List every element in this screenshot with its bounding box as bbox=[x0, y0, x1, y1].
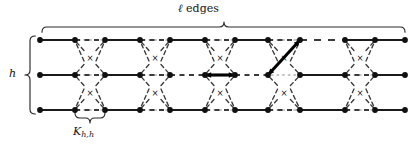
graph-vertex bbox=[297, 37, 303, 43]
bipartite-edge-hint bbox=[347, 44, 355, 61]
graph-vertex bbox=[167, 72, 173, 78]
graph-vertex bbox=[102, 107, 108, 113]
figure-container: ×××××××××× ℓ edges h Kh,h bbox=[0, 0, 416, 150]
graph-vertex bbox=[265, 107, 271, 113]
bipartite-edge-hint bbox=[161, 65, 169, 73]
bipartite-edge-hint bbox=[96, 77, 104, 85]
bipartite-edge-hint bbox=[96, 44, 104, 61]
label-k-subscript: h,h bbox=[81, 130, 94, 139]
bipartite-cross-symbol: × bbox=[86, 88, 93, 98]
graph-vertex bbox=[342, 37, 348, 43]
bipartite-edge-hint bbox=[290, 89, 298, 106]
label-k-h-h: Kh,h bbox=[73, 126, 94, 139]
bipartite-edge-hint bbox=[77, 77, 85, 85]
graph-vertex bbox=[232, 107, 238, 113]
graph-vertex bbox=[37, 72, 43, 78]
bipartite-edge-hint bbox=[270, 89, 278, 106]
bipartite-cross-symbol: × bbox=[216, 53, 223, 63]
bipartite-edge-hint bbox=[347, 89, 355, 106]
brace bbox=[42, 22, 405, 32]
graph-vertex bbox=[102, 72, 108, 78]
bipartite-cross-symbol: × bbox=[86, 53, 93, 63]
bipartite-edge-hint bbox=[77, 44, 85, 61]
bipartite-edge-hint bbox=[270, 77, 278, 85]
bipartite-edge-hint bbox=[270, 44, 278, 61]
bipartite-edge-hint bbox=[142, 89, 150, 106]
label-k-base: K bbox=[73, 125, 81, 138]
bipartite-cross-symbol: × bbox=[356, 53, 363, 63]
graph-vertex bbox=[372, 107, 378, 113]
bipartite-edge-hint bbox=[366, 77, 374, 85]
graph-vertex bbox=[202, 72, 208, 78]
graph-vertex bbox=[102, 37, 108, 43]
bipartite-edge-hint bbox=[226, 44, 234, 61]
graph-vertex bbox=[402, 37, 408, 43]
bipartite-edge-hint bbox=[96, 89, 104, 106]
graph-vertex bbox=[137, 72, 143, 78]
bipartite-edge-hint bbox=[347, 77, 355, 85]
bipartite-cross-symbol: × bbox=[216, 88, 223, 98]
bipartite-edge-hint bbox=[96, 65, 104, 73]
graph-vertex bbox=[167, 37, 173, 43]
label-h: h bbox=[9, 68, 16, 79]
graph-vertex bbox=[297, 107, 303, 113]
bipartite-edge-hint bbox=[207, 65, 215, 73]
bipartite-edge-hint bbox=[207, 44, 215, 61]
label-l-edges: ℓ edges bbox=[178, 3, 219, 14]
graph-vertex bbox=[72, 72, 78, 78]
graph-vertex bbox=[265, 37, 271, 43]
graph-vertex bbox=[265, 72, 271, 78]
graph-vertex bbox=[372, 37, 378, 43]
bipartite-edge-hint bbox=[142, 65, 150, 73]
bipartite-edge-hint bbox=[290, 77, 298, 85]
bipartite-cross-symbol: × bbox=[356, 88, 363, 98]
graph-vertex bbox=[342, 72, 348, 78]
graph-vertex bbox=[342, 107, 348, 113]
bipartite-edge-hint bbox=[77, 65, 85, 73]
bipartite-cross-symbol: × bbox=[151, 53, 158, 63]
bipartite-edge-hint bbox=[77, 89, 85, 106]
graph-diagram-canvas: ×××××××××× bbox=[0, 0, 416, 150]
bipartite-edge-hint bbox=[290, 65, 298, 73]
graph-vertex bbox=[137, 107, 143, 113]
bipartite-edge-hint bbox=[161, 89, 169, 106]
bipartite-edge-hint bbox=[161, 44, 169, 61]
graph-vertex bbox=[167, 107, 173, 113]
brace-layer bbox=[25, 22, 405, 123]
graph-vertex bbox=[137, 37, 143, 43]
bipartite-edge-hint bbox=[366, 89, 374, 106]
bipartite-edge-hint bbox=[366, 44, 374, 61]
graph-vertex bbox=[297, 72, 303, 78]
bipartite-edge-hint bbox=[226, 65, 234, 73]
bipartite-edge-hint bbox=[161, 77, 169, 85]
brace bbox=[25, 36, 36, 114]
bipartite-cross-symbol: × bbox=[280, 88, 287, 98]
graph-vertex bbox=[232, 72, 238, 78]
bipartite-cross-symbol: × bbox=[151, 88, 158, 98]
graph-vertex bbox=[202, 37, 208, 43]
graph-vertex bbox=[37, 107, 43, 113]
bipartite-edge-hint bbox=[142, 77, 150, 85]
graph-vertex bbox=[232, 37, 238, 43]
bipartite-edge-hint bbox=[366, 65, 374, 73]
graph-vertex bbox=[37, 37, 43, 43]
bipartite-edge-hint bbox=[226, 77, 234, 85]
graph-vertex bbox=[72, 37, 78, 43]
bipartite-edge-hint bbox=[347, 65, 355, 73]
graph-vertex bbox=[402, 72, 408, 78]
bipartite-edge-hint bbox=[142, 44, 150, 61]
graph-vertex bbox=[372, 72, 378, 78]
graph-vertex bbox=[202, 107, 208, 113]
bipartite-edge-hint bbox=[207, 77, 215, 85]
bipartite-edge-hint bbox=[226, 89, 234, 106]
bipartite-edge-hint bbox=[207, 89, 215, 106]
graph-vertex bbox=[402, 107, 408, 113]
graph-vertex bbox=[72, 107, 78, 113]
brace bbox=[75, 113, 105, 123]
